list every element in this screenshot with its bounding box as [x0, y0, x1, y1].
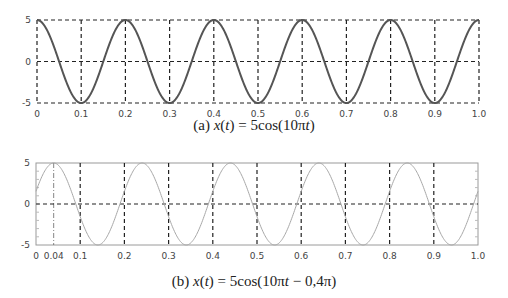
x-tick-label: 0.9 — [427, 251, 442, 261]
caption-b-var: x — [193, 273, 200, 289]
y-tick-label: 5 — [24, 158, 30, 168]
caption-a: (a) x(t) = 5cos(10πt) — [0, 117, 508, 134]
plot-b: 00.040.10.20.30.40.50.60.70.80.91.050-5 — [21, 158, 485, 261]
x-tick-label: 0.2 — [117, 251, 131, 261]
x-tick-label: 0.04 — [44, 251, 64, 261]
caption-b-end: − 0,4π) — [289, 273, 336, 289]
y-tick-label: -5 — [22, 98, 31, 108]
x-tick-label: 0.3 — [161, 251, 175, 261]
caption-b-rhs: = 5cos(10π — [214, 273, 285, 289]
x-tick-label: 0.8 — [382, 251, 397, 261]
x-tick-label: 0.4 — [206, 251, 221, 261]
chart-canvas: 00.10.20.30.40.50.60.70.80.91.050-5 00.0… — [0, 0, 508, 298]
x-tick-label: 1.0 — [471, 251, 486, 261]
caption-b: (b) x(t) = 5cos(10πt − 0,4π) — [0, 273, 508, 290]
y-tick-label: 0 — [24, 199, 30, 209]
caption-a-label: (a) — [193, 117, 213, 133]
plot-a: 00.10.20.30.40.50.60.70.80.91.050-5 — [22, 15, 486, 119]
caption-a-end: ) — [310, 117, 315, 133]
y-tick-label: 5 — [25, 15, 31, 25]
y-tick-label: -5 — [21, 240, 30, 250]
caption-a-rhs: = 5cos(10π — [235, 117, 306, 133]
y-tick-label: 0 — [25, 57, 31, 67]
caption-b-label: (b) — [172, 273, 193, 289]
x-tick-label: 0.5 — [250, 251, 264, 261]
x-tick-label: 0.6 — [294, 251, 309, 261]
x-tick-label: 0.1 — [73, 251, 87, 261]
x-tick-label: 0 — [33, 251, 39, 261]
x-tick-label: 0.7 — [338, 251, 352, 261]
